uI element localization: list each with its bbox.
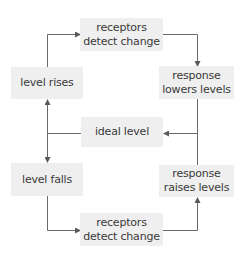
arrow-falls-to-receptors <box>48 196 81 231</box>
node-text: response <box>172 69 220 83</box>
node-response-lowers: response lowers levels <box>159 66 234 99</box>
node-level-rises: level rises <box>11 67 83 99</box>
node-text: receptors <box>96 216 146 230</box>
node-text: receptors <box>96 21 146 35</box>
node-text: detect change <box>83 230 160 244</box>
node-ideal-level: ideal level <box>81 117 163 147</box>
node-text: level rises <box>20 76 73 90</box>
arrow-receptors-to-lowers <box>163 35 198 67</box>
node-receptors-top: receptors detect change <box>80 18 163 51</box>
node-text: detect change <box>83 35 160 49</box>
node-text: lowers levels <box>162 83 231 97</box>
arrow-rises-to-receptors <box>48 35 81 68</box>
node-text: ideal level <box>95 125 149 139</box>
arrow-receptors-to-raises <box>163 198 198 231</box>
node-receptors-bottom: receptors detect change <box>80 213 163 246</box>
node-text: raises levels <box>164 181 229 195</box>
node-text: response <box>172 167 220 181</box>
node-response-raises: response raises levels <box>159 165 234 197</box>
node-text: level falls <box>22 173 72 187</box>
node-level-falls: level falls <box>11 163 83 196</box>
